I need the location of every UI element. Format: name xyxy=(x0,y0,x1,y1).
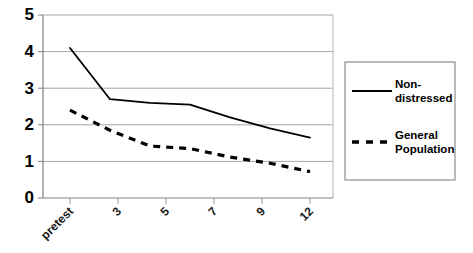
y-tick-label-0: 0 xyxy=(25,188,34,207)
x-tick-marks xyxy=(70,198,310,204)
x-tick-label-7: 7 xyxy=(205,204,220,219)
y-tick-label-4: 4 xyxy=(25,42,35,61)
x-tick-label-12: 12 xyxy=(297,204,317,224)
x-tick-label-5: 5 xyxy=(157,204,172,219)
legend-label-general-population-line2: Population xyxy=(395,143,454,155)
y-tick-label-2: 2 xyxy=(25,115,34,134)
legend-label-non-distressed-line2: distressed xyxy=(395,92,453,104)
y-tick-label-5: 5 xyxy=(25,5,34,24)
plot-area-background xyxy=(43,15,333,198)
line-chart: 5 4 3 2 1 0 pretest 3 5 7 9 12 Non- xyxy=(0,0,473,253)
legend: Non- distressed General Population xyxy=(345,62,455,180)
x-tick-label-9: 9 xyxy=(253,204,268,219)
legend-label-general-population-line1: General xyxy=(395,129,438,141)
y-tick-marks xyxy=(38,15,43,198)
legend-label-non-distressed-line1: Non- xyxy=(395,78,421,90)
chart-container: 5 4 3 2 1 0 pretest 3 5 7 9 12 Non- xyxy=(0,0,473,253)
x-tick-label-pretest: pretest xyxy=(38,204,76,242)
y-tick-label-1: 1 xyxy=(25,152,34,171)
x-tick-label-3: 3 xyxy=(109,204,124,219)
y-tick-label-3: 3 xyxy=(25,79,34,98)
